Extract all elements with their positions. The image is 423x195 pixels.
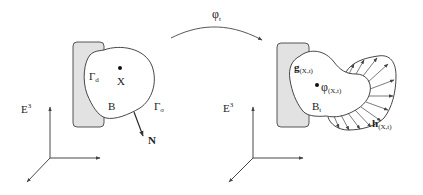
body-label-b: B: [108, 100, 115, 112]
space-label-right: E3: [223, 101, 234, 114]
material-point-x: [118, 66, 122, 70]
space-label-left: E3: [21, 102, 32, 115]
normal-label-n: N: [148, 134, 156, 146]
mapping-label-phi-t: φt: [212, 7, 221, 23]
motion-mapping: φt: [171, 7, 262, 40]
gamma-sigma-label: Γσ: [154, 100, 164, 114]
mapping-arrow: [171, 27, 262, 40]
continuum-mechanics-diagram: X Γd B Γσ N E3 φt: [0, 0, 423, 195]
normal-arrow: [134, 112, 143, 136]
current-configuration: φ(X,t) g(X,t) Bt h(X,t) E3: [223, 43, 396, 182]
spatial-point: [315, 83, 319, 87]
reference-configuration: X Γd B Γσ N E3: [21, 42, 164, 182]
point-label-x: X: [117, 75, 125, 87]
